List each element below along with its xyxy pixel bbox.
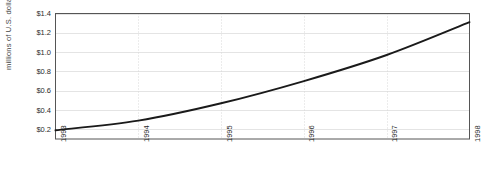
x-axis-tick-label: 1996	[307, 125, 316, 142]
data-series-line	[56, 22, 470, 130]
vertical-gridline-group	[139, 14, 388, 140]
x-axis-tick-label: 1993	[59, 125, 68, 142]
x-axis-tick-label-group: 1993 1994 1995 1996 1997 1998	[0, 139, 487, 173]
x-axis-tick-label: 1998	[473, 125, 482, 142]
plot-border	[56, 14, 470, 140]
x-axis-tick-label: 1997	[390, 125, 399, 142]
line-chart-figure: millions of U.S. dollars $1.4 $1.2 $1.0 …	[0, 0, 487, 173]
x-axis-tick-label: 1995	[225, 125, 234, 142]
x-axis-tick-label: 1994	[142, 125, 151, 142]
horizontal-gridline-group	[56, 15, 470, 130]
